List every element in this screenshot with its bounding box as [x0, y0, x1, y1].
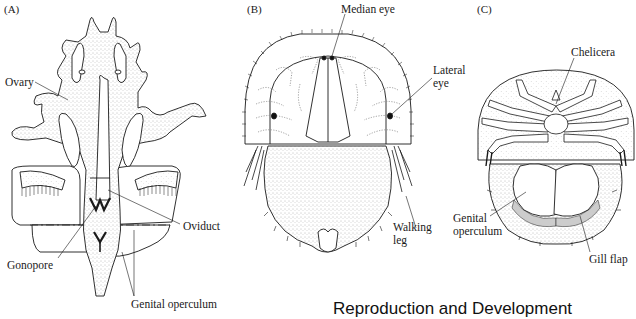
label-gill-flap: Gill flap [589, 253, 628, 265]
figure-caption: Reproduction and Development [333, 299, 572, 319]
label-genital-operculum-c-line1: Genital [453, 212, 487, 224]
label-ovary: Ovary [5, 76, 34, 88]
panel-b-drawing [242, 14, 432, 252]
label-oviduct: Oviduct [183, 220, 220, 232]
panel-c-letter: (C) [477, 3, 492, 15]
label-genital-operculum-c-line2: operculum [453, 225, 502, 237]
panel-a-drawing [12, 17, 206, 296]
label-walking-leg-line2: leg [393, 234, 407, 246]
label-chelicera: Chelicera [571, 46, 615, 58]
panel-a-letter: (A) [4, 3, 19, 15]
label-median-eye: Median eye [341, 3, 395, 15]
label-gonopore: Gonopore [7, 259, 53, 271]
panel-b-letter: (B) [247, 3, 262, 15]
label-genital-operculum-a: Genital operculum [131, 298, 217, 310]
panel-c-drawing [478, 58, 634, 252]
label-lateral-eye-line2: eye [433, 77, 449, 89]
label-lateral-eye-line1: Lateral [433, 64, 466, 76]
label-walking-leg-line1: Walking [393, 221, 432, 233]
